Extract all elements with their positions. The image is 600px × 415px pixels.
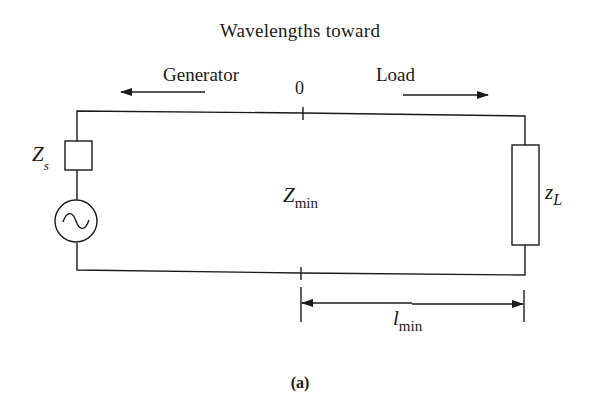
load-impedance-label: zL xyxy=(545,180,562,209)
source-impedance-label: Zs xyxy=(32,142,49,170)
top-conductor xyxy=(77,111,525,145)
figure-caption: (a) xyxy=(0,374,600,392)
source-impedance-box xyxy=(65,141,92,170)
load-direction-label: Load xyxy=(376,64,415,86)
distance-label: lmin xyxy=(393,306,422,335)
load-impedance-box xyxy=(512,145,539,245)
sine-wave-icon xyxy=(63,214,89,229)
diagram-title: Wavelengths toward xyxy=(0,20,600,42)
origin-label: 0 xyxy=(295,78,304,99)
generator-direction-label: Generator xyxy=(163,64,239,86)
min-impedance-label: Zmin xyxy=(283,183,318,212)
transmission-line-diagram: Wavelengths toward Generator Load 0 Zs Z… xyxy=(0,0,600,415)
